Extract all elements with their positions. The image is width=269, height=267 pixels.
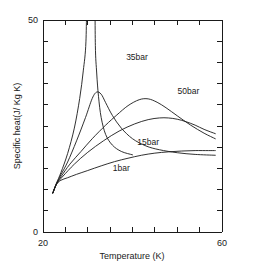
series-label-35bar: 35bar — [126, 52, 148, 62]
ytick-label-min: 0 — [33, 227, 38, 237]
series-label-15bar: 15bar — [137, 137, 159, 147]
specific-heat-vs-temperature-plot: 50 0 20 60 Temperature (K) Specific heat… — [0, 0, 269, 267]
curve-15bar — [53, 92, 215, 193]
series-label-50bar: 50bar — [178, 86, 200, 96]
series-annotations: 1bar15bar35bar50bar — [113, 52, 200, 172]
xtick-label-max: 60 — [217, 238, 227, 248]
xtick-label-min: 20 — [38, 238, 48, 248]
curve-1bar — [53, 151, 215, 193]
y-axis-title: Specific heat(J/ Kg K) — [12, 83, 22, 170]
x-axis-title: Temperature (K) — [99, 251, 164, 261]
chart-figure: 50 0 20 60 Temperature (K) Specific heat… — [0, 0, 269, 267]
series-label-1bar: 1bar — [113, 163, 130, 173]
ytick-label-max: 50 — [28, 15, 38, 25]
curve-critical-divergence-branch-2 — [95, 0, 133, 155]
data-curves — [53, 0, 215, 193]
